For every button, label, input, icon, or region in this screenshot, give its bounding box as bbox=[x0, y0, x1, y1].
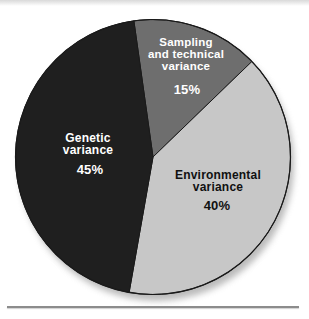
slice-label-environmental-variance: Environmental variance bbox=[158, 169, 278, 193]
slice-percent-genetic-variance: 45% bbox=[50, 163, 130, 176]
figure-bottom-rule bbox=[7, 306, 299, 308]
slice-percent-sampling-technical-variance: 15% bbox=[147, 83, 227, 96]
pie-chart-figure: Sampling and technical variance 15% Envi… bbox=[0, 0, 309, 319]
slice-label-sampling-technical-variance: Sampling and technical variance bbox=[126, 36, 246, 72]
slice-percent-environmental-variance: 40% bbox=[177, 199, 257, 212]
slice-label-genetic-variance: Genetic variance bbox=[28, 132, 148, 156]
